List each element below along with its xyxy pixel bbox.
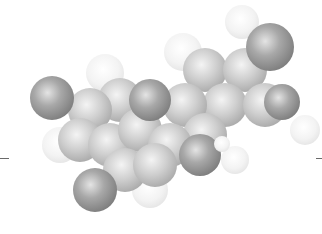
heteroatom-atom (30, 76, 74, 120)
heteroatom-atom (129, 79, 171, 121)
edge-tick-mark (0, 158, 9, 159)
carbon-atom (133, 143, 177, 187)
edge-tick-mark (316, 158, 322, 159)
molecule-model (0, 0, 322, 234)
heteroatom-atom (73, 168, 117, 212)
heteroatom-atom (264, 84, 300, 120)
heteroatom-atom (246, 23, 294, 71)
hydrogen-atom (214, 136, 230, 152)
hydrogen-atom (290, 115, 320, 145)
